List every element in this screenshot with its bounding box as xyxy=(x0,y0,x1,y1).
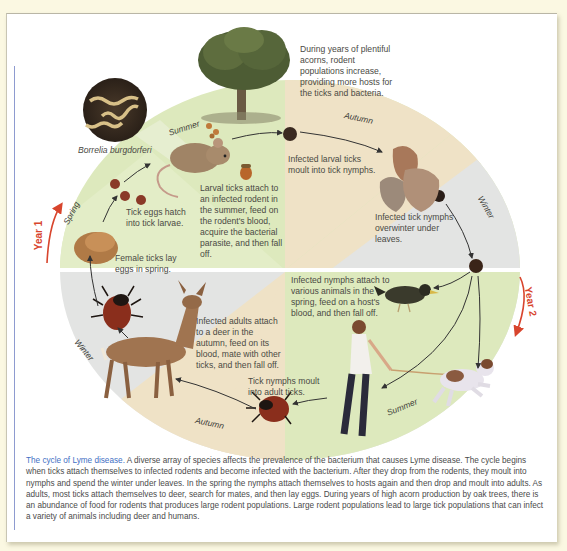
figure-caption: The cycle of Lyme disease. A diverse arr… xyxy=(26,455,546,523)
annotation-acorns: During years of plentiful acorns, rodent… xyxy=(300,44,400,99)
year1-arrow xyxy=(47,205,61,263)
year1-label: Year 1 xyxy=(33,221,44,250)
annotation-female-lay: Female ticks lay eggs in spring. xyxy=(115,253,179,275)
annotation-nymph-attach: Infected nymphs attach to various animal… xyxy=(291,275,399,319)
caption-title: The cycle of Lyme disease. xyxy=(26,456,125,465)
annotation-eggs-hatch: Tick eggs hatch into tick larvae. xyxy=(126,207,192,229)
annotation-larval-moult: Infected larval ticks moult into tick ny… xyxy=(288,154,378,176)
caption-body: A diverse array of species affects the p… xyxy=(26,456,543,521)
tick-eggs xyxy=(74,232,118,264)
tick-larva-top xyxy=(283,127,297,141)
annotation-nymph-moult: Tick nymphs moult into adult ticks. xyxy=(248,376,320,398)
tick-nymph-right xyxy=(469,259,483,273)
bacterium-label: Borrelia burgdorferi xyxy=(78,145,152,156)
annotation-adults-attach: Infected adults attach to a deer in the … xyxy=(196,316,286,371)
annotation-overwinter: Infected tick nymphs overwinter under le… xyxy=(375,212,461,245)
annotation-larval-attach: Larval ticks attach to an infected roden… xyxy=(200,183,284,260)
